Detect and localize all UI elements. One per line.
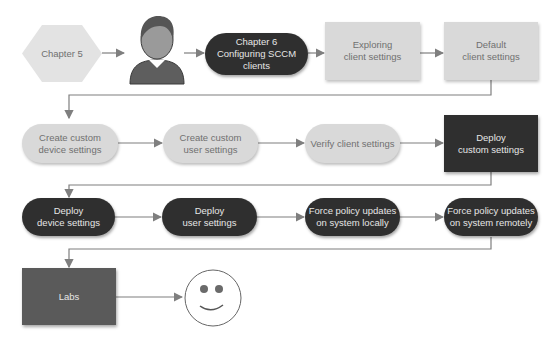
deploy-custom-settings-node: Deploy custom settings — [444, 115, 538, 172]
force-policy-updates-remotely-node: Force policy updates on system remotely — [444, 198, 538, 236]
chapter5-label: Chapter 5 — [22, 25, 102, 82]
deploy-user-settings-node: Deploy user settings — [162, 198, 257, 236]
smiley-icon — [183, 268, 243, 328]
chapter6-node: Chapter 6 Configuring SCCM clients — [205, 33, 308, 75]
deploy-device-settings-node: Deploy device settings — [22, 198, 115, 236]
labs-node: Labs — [22, 268, 116, 325]
chapter5-hexagon: Chapter 5 — [22, 25, 102, 82]
person-icon — [128, 14, 186, 86]
create-custom-device-settings-node: Create custom device settings — [22, 124, 118, 163]
verify-client-settings-node: Verify client settings — [305, 124, 400, 163]
exploring-client-settings-node: Exploring client settings — [325, 22, 420, 80]
create-custom-user-settings-node: Create custom user settings — [163, 124, 258, 163]
force-policy-updates-locally-node: Force policy updates on system locally — [305, 198, 400, 236]
default-client-settings-node: Default client settings — [444, 22, 538, 80]
